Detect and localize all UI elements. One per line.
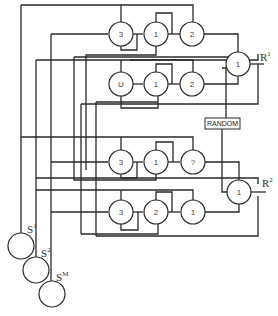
svg-text:1: 1 — [154, 80, 159, 89]
row4-node-3: 1 — [181, 200, 205, 224]
row3-node-2: 1 — [144, 150, 168, 174]
output-node-2: 1 — [227, 180, 251, 204]
output-label-r2: R2 — [262, 176, 273, 189]
svg-text:RANDOM: RANDOM — [207, 120, 238, 127]
row1-node-1: 3 — [109, 22, 133, 46]
svg-text:2: 2 — [154, 208, 159, 217]
row1-node-2: 1 — [144, 22, 168, 46]
sensor-1: S1 — [8, 222, 37, 259]
row3-node-1: 3 — [109, 150, 133, 174]
svg-text:1: 1 — [154, 30, 159, 39]
svg-text:1: 1 — [237, 188, 242, 197]
svg-text:2: 2 — [190, 30, 195, 39]
svg-text:1: 1 — [236, 60, 241, 69]
row2-node-1: U — [109, 72, 133, 96]
row4-node-1: 3 — [109, 200, 133, 224]
svg-text:U: U — [118, 80, 124, 89]
network-diagram: 3 1 2 U 1 2 1 R1 RANDOM 3 1 ? — [0, 0, 278, 316]
svg-text:2: 2 — [190, 80, 195, 89]
svg-text:SM: SM — [56, 270, 69, 283]
svg-text:?: ? — [191, 158, 196, 167]
svg-text:3: 3 — [119, 30, 124, 39]
row1-node-3: 2 — [180, 22, 204, 46]
svg-text:1: 1 — [154, 158, 159, 167]
output-label-r1: R1 — [260, 50, 271, 63]
output-node-1: 1 — [226, 52, 250, 76]
svg-text:3: 3 — [119, 208, 124, 217]
svg-text:3: 3 — [119, 158, 124, 167]
svg-text:1: 1 — [191, 208, 196, 217]
random-box: RANDOM — [205, 118, 240, 129]
svg-text:S2: S2 — [41, 246, 51, 259]
row4-node-2: 2 — [144, 200, 168, 224]
row3-node-3: ? — [181, 150, 205, 174]
row2-node-3: 2 — [180, 72, 204, 96]
row2-node-2: 1 — [144, 72, 168, 96]
